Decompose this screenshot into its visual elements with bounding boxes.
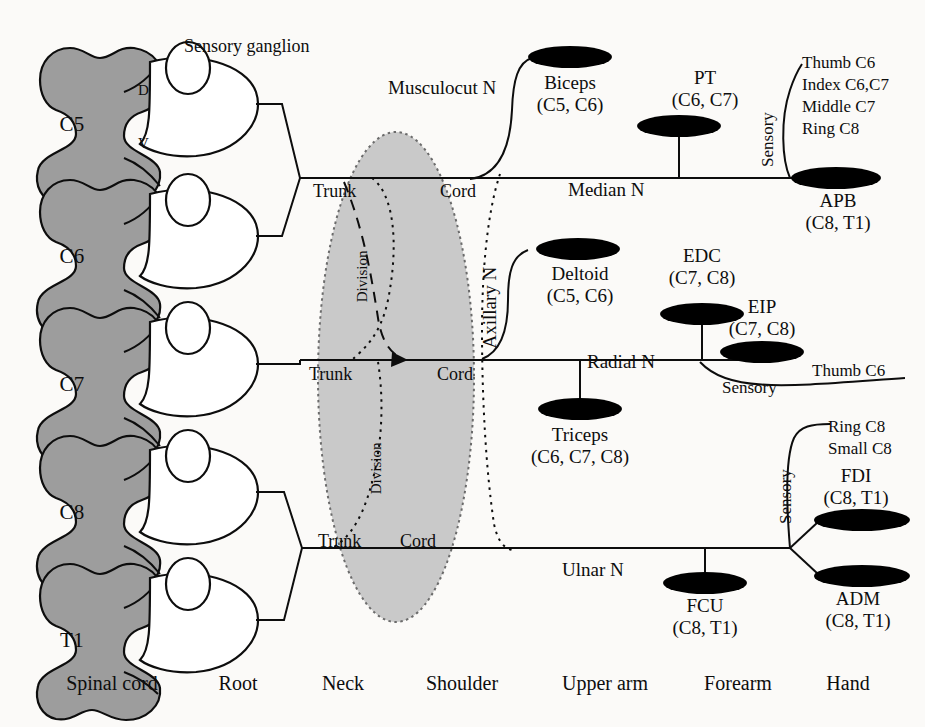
label-roots-biceps: (C5, C6) [537, 94, 604, 115]
label-muscle-triceps: Triceps [552, 424, 608, 445]
muscle-eip [720, 341, 804, 363]
label-division-upper: Division [354, 236, 371, 316]
label-muscle-eip: EIP [748, 296, 777, 317]
label-sensory-ganglion: Sensory ganglion [184, 36, 310, 56]
muscle-pt [637, 115, 721, 137]
region-label-forearm: Forearm [704, 672, 772, 694]
region-label-spinal-cord: Spinal cord [66, 672, 158, 694]
label-roots-fcu: (C8, T1) [672, 617, 737, 638]
label-muscle-fdi: FDI [841, 465, 872, 486]
label-trunk-middle: Trunk [309, 364, 352, 384]
label-roots-apb: (C8, T1) [805, 212, 870, 233]
label-sensory-median: Sensory [758, 95, 777, 185]
muscle-fdi [814, 509, 910, 531]
label-roots-deltoid: (C5, C6) [547, 285, 614, 306]
label-nerve-ulnar: Ulnar N [562, 559, 624, 580]
sensory-ulnar-ring: Ring C8 [828, 416, 885, 438]
label-roots-pt: (C6, C7) [672, 89, 739, 110]
label-cord-middle: Cord [437, 364, 473, 384]
label-division-lower: Division [368, 428, 385, 508]
label-roots-eip: (C7, C8) [729, 318, 796, 339]
muscle-deltoid [536, 238, 620, 260]
muscle-apb [791, 167, 881, 189]
segment-label-c8: C8 [59, 501, 84, 525]
label-nerve-radial: Radial N [587, 351, 655, 372]
label-muscle-biceps: Biceps [544, 72, 596, 93]
muscle-triceps [538, 398, 622, 420]
sensory-median-thumb: Thumb C6 [802, 52, 875, 74]
segment-label-c5: C5 [59, 113, 84, 137]
label-dorsal-marker: D [138, 82, 149, 99]
sensory-ulnar-small: Small C8 [828, 438, 892, 460]
segment-label-t1: T1 [60, 629, 84, 653]
label-muscle-fcu: FCU [687, 595, 724, 616]
label-ventral-marker: V [138, 135, 149, 152]
label-muscle-apb: APB [820, 190, 857, 211]
label-roots-edc: (C7, C8) [669, 267, 736, 288]
label-nerve-axillary: Axillary N [479, 248, 500, 368]
region-label-root: Root [219, 672, 258, 694]
label-roots-adm: (C8, T1) [825, 610, 890, 631]
label-muscle-adm: ADM [836, 588, 880, 609]
label-trunk-upper: Trunk [313, 181, 356, 201]
muscle-adm [814, 565, 910, 587]
sensory-median-ring: Ring C8 [802, 118, 859, 140]
label-roots-fdi: (C8, T1) [823, 487, 888, 508]
muscle-fcu [663, 572, 747, 594]
label-roots-triceps: (C6, C7, C8) [531, 446, 629, 467]
label-sensory-radial: Sensory [722, 378, 777, 397]
segment-label-c6: C6 [59, 245, 84, 269]
label-muscle-deltoid: Deltoid [552, 263, 609, 284]
label-trunk-lower: Trunk [318, 531, 361, 551]
label-nerve-median: Median N [568, 179, 645, 200]
label-cord-lower: Cord [400, 531, 436, 551]
muscle-biceps [528, 46, 612, 68]
region-label-upper-arm: Upper arm [562, 672, 648, 694]
region-label-hand: Hand [826, 672, 869, 694]
label-cord-upper: Cord [440, 181, 476, 201]
sensory-median-middle: Middle C7 [802, 96, 875, 118]
sensory-radial-thumb: Thumb C6 [812, 360, 885, 382]
label-nerve-musculocutaneous: Musculocut N [388, 77, 496, 98]
region-label-neck: Neck [322, 672, 364, 694]
sensory-median-index: Index C6,C7 [802, 74, 889, 96]
label-muscle-edc: EDC [683, 245, 721, 266]
label-muscle-pt: PT [694, 67, 716, 88]
region-label-shoulder: Shoulder [426, 672, 498, 694]
figure-canvas: Sensory ganglion C5 C6 C7 C8 T1 D V Trun… [0, 0, 925, 727]
segment-label-c7: C7 [59, 373, 84, 397]
label-sensory-ulnar: Sensory [776, 452, 795, 542]
